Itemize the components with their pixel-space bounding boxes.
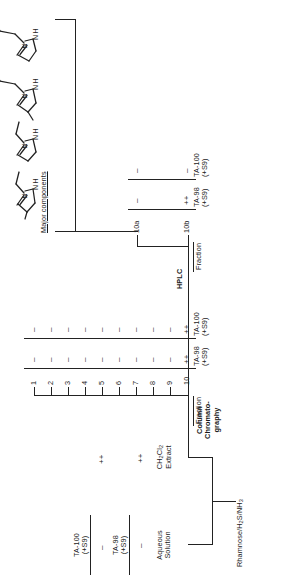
stage2-ta100-value-4: –	[81, 328, 89, 332]
stage2-ta100-value-6: –	[115, 328, 123, 332]
source-material-label: Rhamnose/H2S/NH3	[236, 499, 245, 567]
stage2-ta100-line2: (+S9)	[200, 317, 209, 336]
step1-line3: graphy	[212, 408, 221, 433]
stage2-ta98-value-8: –	[149, 358, 157, 362]
structure-2-atom-h: H	[32, 128, 39, 133]
stage3-fraction-underline	[193, 242, 194, 272]
stage2-ta98-value-7: –	[132, 358, 140, 362]
stage1-header-ta100: TA-100 (+S9)	[73, 515, 90, 575]
branch-extract-line	[188, 457, 213, 458]
stage1-row0-ta98-value: –	[137, 544, 145, 548]
stage2-ta100-value-8: –	[149, 328, 157, 332]
stage1-ta100-line2: (+S9)	[80, 536, 89, 555]
hplc-split-spine	[137, 246, 189, 247]
stage2-ta98-rule	[24, 368, 196, 369]
stage2-ta100-value-1: –	[30, 328, 38, 332]
branch-aqueous-label: Aqueous Solution	[156, 515, 173, 575]
stage3-ta100-line2: (+S9)	[200, 158, 209, 177]
structure-2-atom-nh: N	[32, 135, 39, 140]
structure-4-atom-nh: N	[32, 35, 39, 40]
fraction-tick-6	[119, 387, 120, 396]
fraction-tick-8	[153, 387, 154, 396]
structure-1-atom-h: H	[32, 178, 39, 183]
stage2-ta98-value-6: –	[115, 358, 123, 362]
structure-3-imidazole: N N H	[0, 59, 52, 117]
fraction-label-2: 2	[47, 381, 55, 385]
fractionation-flow-diagram: Rhamnose/H2S/NH3 Aqueous Solution CH2Cl2…	[0, 0, 288, 581]
branch-aqueous-line	[188, 544, 213, 545]
hplc-tick-10b	[188, 235, 189, 247]
fraction-label-9: 9	[166, 381, 174, 385]
stage3-header-ta100: TA-100 (+S9)	[193, 153, 210, 177]
hplc-tick-10a	[137, 235, 138, 247]
fraction-tick-4	[85, 387, 86, 396]
source-split-bar	[212, 458, 213, 545]
fraction-tick-2	[51, 387, 52, 396]
stage2-ta98-value-5: –	[98, 358, 106, 362]
structure-4-imidazole: N N H	[0, 9, 52, 67]
fraction-label-5: 5	[98, 381, 106, 385]
stage3-ta98-value-10b: ++	[183, 196, 191, 205]
stage2-header-ta100: TA-100 (+S9)	[193, 312, 210, 336]
step2-label: HPLC	[176, 269, 184, 289]
extract-line2: Extract	[164, 445, 173, 468]
stage2-ta100-value-9: –	[166, 328, 174, 332]
stage2-header-fraction: Fraction	[195, 397, 203, 424]
stage2-ta98-value-1: –	[30, 358, 38, 362]
fraction-tick-7	[136, 387, 137, 396]
stage2-ta100-value-7: –	[132, 328, 140, 332]
fraction-tick-3	[68, 387, 69, 396]
fraction-label-3: 3	[64, 381, 72, 385]
products-brace-right-end	[55, 19, 76, 20]
structure-2-imidazole: N N H	[0, 109, 52, 167]
stage1-row1-ta98-value: ++	[137, 454, 145, 463]
stage3-header-fraction: Fraction	[195, 243, 203, 270]
extract-line1: CH2Cl2	[155, 445, 164, 469]
fraction-label-6: 6	[115, 381, 123, 385]
structure-1-imidazole: N N H	[0, 159, 52, 217]
products-stem-line	[75, 231, 138, 232]
stage2-ta98-value-3: –	[64, 358, 72, 362]
fraction-label-1: 1	[30, 381, 38, 385]
structure-3-atom-nh: N	[32, 85, 39, 90]
source-stem-line	[212, 501, 236, 502]
stage3-ta98-value-10a: –	[133, 199, 141, 203]
stage2-ta98-line2: (+S9)	[200, 347, 209, 366]
fraction-label-7: 7	[132, 381, 140, 385]
stage2-header-ta98: TA-98 (+S9)	[193, 346, 210, 366]
stage2-ta98-value-2: –	[47, 358, 55, 362]
stage3-header-ta98: TA-98 (+S9)	[193, 187, 210, 207]
products-brace-bar	[75, 19, 76, 232]
stage2-ta98-value-10: ++	[183, 355, 191, 364]
fraction-tick-9	[170, 387, 171, 396]
stage3-ta98-line2: (+S9)	[200, 188, 209, 207]
structure-2-atom-n: N	[21, 143, 28, 148]
structure-4-atom-n: N	[21, 43, 28, 48]
aqueous-line2: Solution	[163, 531, 172, 558]
column-chromatography-arm	[188, 396, 189, 458]
stage3-ta100-rule	[128, 179, 196, 180]
fraction-comb-spine	[34, 395, 189, 396]
stage2-ta98-value-4: –	[81, 358, 89, 362]
stage1-row0-ta100-value: –	[98, 546, 106, 550]
stage2-ta100-value-5: –	[98, 328, 106, 332]
stage1-row1-ta100-value: ++	[98, 455, 106, 464]
stage1-header-ta98: TA-98 (+S9)	[112, 515, 129, 575]
stage2-ta100-value-10: ++	[183, 325, 191, 334]
fraction-tick-1	[34, 387, 35, 396]
fraction-label-8: 8	[149, 381, 157, 385]
stage1-ta98-underline	[129, 515, 130, 575]
stage1-ta100-underline	[90, 515, 91, 575]
stage3-ta100-value-10a: –	[133, 169, 141, 173]
structure-1-atom-n: N	[21, 193, 28, 198]
structure-3-atom-n: N	[21, 93, 28, 98]
structure-1-atom-nh: N	[32, 185, 39, 190]
branch-extract-label: CH2Cl2 Extract	[156, 427, 174, 487]
structure-4-atom-h: H	[32, 28, 39, 33]
hplc-connector-line	[188, 247, 189, 396]
stage2-ta98-value-9: –	[166, 358, 174, 362]
stage1-ta98-line2: (+S9)	[119, 536, 128, 555]
stage2-ta100-rule	[24, 338, 196, 339]
stage3-fraction-label-10b: 10b	[183, 221, 191, 233]
stage2-ta100-value-3: –	[64, 328, 72, 332]
